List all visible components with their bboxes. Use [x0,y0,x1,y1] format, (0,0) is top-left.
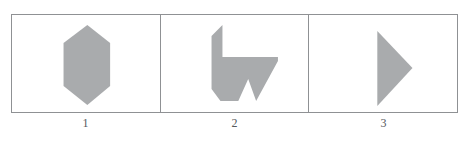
shape-panel-1[interactable] [12,15,160,112]
panel-label-1: 1 [82,116,88,130]
label-cell-2: 2 [160,116,309,142]
panel-frame [11,14,458,113]
triangle-shape [309,15,457,112]
panel-label-2: 2 [231,116,237,130]
panel-labels: 1 2 3 [11,116,458,142]
label-cell-3: 3 [309,116,458,142]
hexagon-shape [12,15,160,112]
arrow-polygon-shape [161,15,309,112]
panel-label-3: 3 [380,116,386,130]
shape-panel-3[interactable] [308,15,457,112]
shape-panel-2[interactable] [160,15,309,112]
label-cell-1: 1 [11,116,160,142]
shape-figure: 1 2 3 [0,0,469,151]
